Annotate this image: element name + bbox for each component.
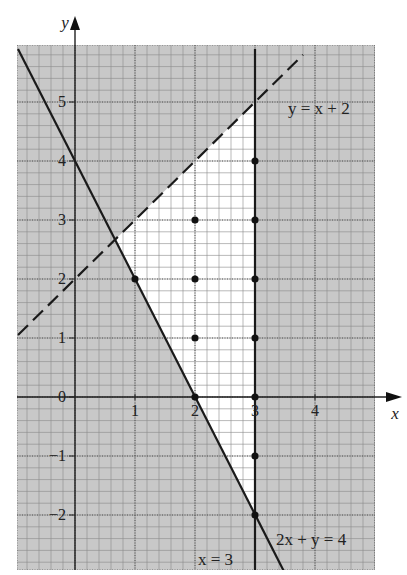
equation-label: x = 3: [198, 550, 233, 569]
y-tick-label: 0: [58, 388, 66, 405]
equation-label: y = x + 2: [288, 99, 350, 118]
x-tick-label: 4: [311, 402, 319, 419]
integer-point: [191, 216, 198, 223]
integer-point: [191, 393, 198, 400]
y-tick-label: 4: [58, 152, 66, 169]
integer-point: [251, 275, 258, 282]
integer-point: [251, 393, 258, 400]
integer-point: [191, 275, 198, 282]
x-tick-label: 3: [251, 402, 259, 419]
equation-label: 2x + y = 4: [276, 530, 347, 549]
integer-point: [251, 334, 258, 341]
integer-point: [251, 216, 258, 223]
integer-point: [251, 452, 258, 459]
y-tick-label: 5: [58, 93, 66, 110]
x-axis-arrow-icon: [386, 392, 402, 402]
y-tick-label: 3: [58, 211, 66, 228]
integer-point: [191, 334, 198, 341]
x-axis-label: x: [390, 404, 399, 423]
integer-point: [251, 511, 258, 518]
y-tick-label: −2: [49, 506, 66, 523]
y-axis-label: y: [59, 13, 69, 32]
y-tick-label: 2: [58, 270, 66, 287]
y-tick-label: −1: [49, 447, 66, 464]
x-tick-label: 2: [191, 402, 199, 419]
integer-point: [251, 157, 258, 164]
x-tick-label: 1: [131, 402, 139, 419]
linear-programming-graph: 1234012345−1−2xy2x + y = 4y = x + 2x = 3: [0, 0, 407, 575]
integer-point: [131, 275, 138, 282]
y-tick-label: 1: [58, 329, 66, 346]
y-axis-arrow-icon: [70, 16, 80, 30]
